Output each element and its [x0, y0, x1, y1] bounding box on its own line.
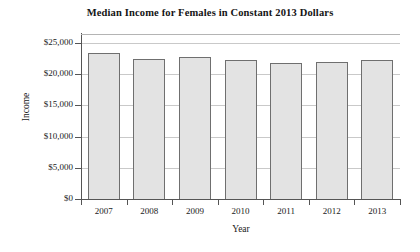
plot-top-rule	[81, 34, 400, 35]
bar-2013	[361, 60, 393, 199]
x-axis-tick	[127, 200, 128, 205]
x-axis-line	[81, 199, 401, 200]
y-axis-tick	[75, 43, 82, 44]
x-axis-tick	[81, 200, 82, 205]
x-axis-tick	[263, 200, 264, 205]
bar-2009	[179, 57, 211, 199]
bar-2011	[270, 63, 302, 199]
y-axis-tick	[75, 105, 82, 106]
y-axis-tick-label: $5,000	[7, 162, 73, 172]
bar-2007	[88, 53, 120, 199]
bar-2012	[316, 62, 348, 199]
y-axis-tick	[75, 137, 82, 138]
bar-2010	[225, 60, 257, 199]
bar-2008	[133, 59, 165, 199]
y-axis-tick	[75, 168, 82, 169]
y-axis-tick-label: $15,000	[7, 99, 73, 109]
y-axis-tick-label: $20,000	[7, 68, 73, 78]
x-axis-tick	[400, 200, 401, 205]
gridline-y	[81, 43, 400, 44]
x-axis-tick-label-2013: 2013	[350, 206, 404, 216]
x-axis-label: Year	[81, 224, 401, 234]
y-axis-tick	[75, 74, 82, 75]
x-axis-tick	[354, 200, 355, 205]
y-axis-tick-labels: $0$5,000$10,000$15,000$20,000$25,000	[0, 0, 73, 252]
plot-area	[81, 34, 400, 199]
x-axis-tick	[309, 200, 310, 205]
y-axis-tick-label: $25,000	[7, 37, 73, 47]
y-axis-tick-label: $10,000	[7, 131, 73, 141]
x-axis-tick	[172, 200, 173, 205]
y-axis-tick-label: $0	[7, 193, 73, 203]
bar-chart: Median Income for Females in Constant 20…	[0, 0, 420, 252]
x-axis-tick	[218, 200, 219, 205]
